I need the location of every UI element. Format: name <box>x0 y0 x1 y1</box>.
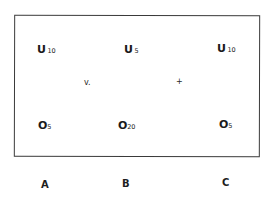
column-c-bottom-symbol: O5 <box>219 119 232 130</box>
symbol-subscript: 10 <box>47 47 55 55</box>
column-b-bottom-symbol: O20 <box>118 120 135 131</box>
symbol-letter: O <box>118 119 127 132</box>
symbol-letter: U <box>37 43 46 56</box>
symbol-subscript: 5 <box>47 123 51 131</box>
column-b-top-symbol: U5 <box>124 44 139 55</box>
symbol-subscript: 5 <box>134 47 138 55</box>
symbol-letter: U <box>217 42 226 55</box>
column-a-top-symbol: U10 <box>37 44 56 55</box>
operator-vs: v. <box>84 79 91 87</box>
symbol-subscript: 10 <box>227 46 235 54</box>
symbol-letter: U <box>124 43 133 56</box>
column-a-bottom-symbol: O5 <box>38 120 51 131</box>
symbol-subscript: 5 <box>228 122 232 130</box>
diagram-frame <box>14 15 260 158</box>
column-label-a: A <box>41 180 49 190</box>
column-label-b: B <box>122 179 130 189</box>
symbol-letter: O <box>38 119 47 132</box>
column-c-top-symbol: U10 <box>217 43 236 54</box>
symbol-subscript: 20 <box>127 123 135 131</box>
column-label-c: C <box>222 178 229 188</box>
symbol-letter: O <box>219 118 228 131</box>
operator-plus: + <box>176 78 183 86</box>
